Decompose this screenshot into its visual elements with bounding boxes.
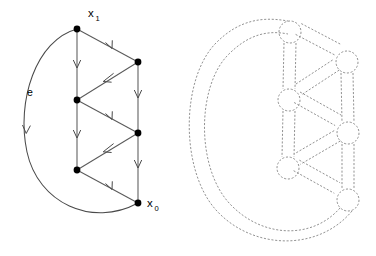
- vertex-b2[interactable]: [135, 130, 142, 137]
- figure-background: [0, 0, 376, 256]
- figure-root: x 1 x 0 e: [0, 0, 376, 256]
- vertex-b1[interactable]: [135, 59, 142, 66]
- vertex-label-x1-base: x: [88, 7, 94, 19]
- graph-figure-svg: x 1 x 0 e: [0, 0, 376, 256]
- vertex-a2[interactable]: [74, 167, 81, 174]
- vertex-label-x1-sub: 1: [96, 14, 100, 23]
- edge-label-e: e: [27, 86, 33, 98]
- vertex-label-x0-sub: 0: [155, 204, 159, 213]
- vertex-x0[interactable]: [135, 200, 142, 207]
- vertex-x1[interactable]: [74, 26, 81, 33]
- vertex-label-x0-base: x: [147, 197, 153, 209]
- vertex-a1[interactable]: [74, 97, 81, 104]
